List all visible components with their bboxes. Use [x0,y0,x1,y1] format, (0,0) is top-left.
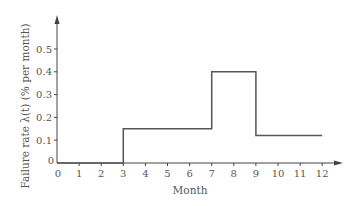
x-tick-label: 9 [253,168,259,179]
y-tick-label: 0.4 [36,66,52,77]
failure-rate-step-line [57,72,322,163]
y-axis-label: Failure rate λ(t) (% per month) [19,23,31,188]
axes [55,15,344,166]
y-axis-arrow-icon [55,15,60,24]
x-axis-arrow-icon [334,161,343,166]
y-tick-label: 0.5 [36,44,52,55]
x-tick-label: 7 [209,168,215,179]
y-tick-label: 0.2 [36,112,52,123]
x-axis-ticks: 0123456789101112 [55,163,329,179]
x-tick-label: 8 [231,168,237,179]
x-tick-label: 2 [98,168,104,179]
x-tick-label: 5 [164,168,170,179]
failure-rate-chart: 00.10.20.30.40.5 0123456789101112 Month … [0,0,357,206]
x-tick-label: 0 [55,168,61,179]
y-tick-label: 0 [48,155,54,166]
x-tick-label: 11 [294,168,307,179]
x-tick-label: 10 [272,168,285,179]
x-tick-label: 1 [76,168,82,179]
y-tick-label: 0.1 [36,135,52,146]
x-tick-label: 6 [186,168,192,179]
y-axis-ticks: 00.10.20.30.40.5 [36,44,57,167]
y-tick-label: 0.3 [36,89,52,100]
x-tick-label: 4 [142,168,148,179]
x-tick-label: 12 [316,168,329,179]
x-axis-label: Month [173,184,208,196]
x-tick-label: 3 [120,168,126,179]
